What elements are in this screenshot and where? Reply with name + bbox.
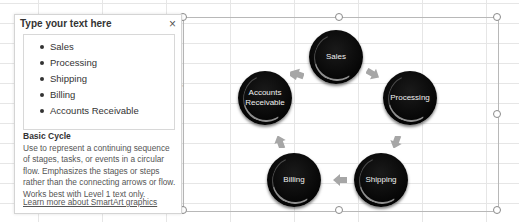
list-item[interactable]: Sales xyxy=(40,39,139,55)
bullet-icon xyxy=(40,61,44,65)
resize-handle-middle-right[interactable] xyxy=(493,110,501,118)
resize-handle-bottom-center[interactable] xyxy=(335,206,343,214)
text-pane-header: Type your text here × xyxy=(15,15,181,33)
resize-handle-bottom-right[interactable] xyxy=(493,206,501,214)
node-label-line1: Accounts xyxy=(249,88,282,98)
node-label: Sales xyxy=(326,52,346,62)
arrow-icon xyxy=(389,136,403,148)
bullet-icon xyxy=(40,45,44,49)
smartart-text-pane: Type your text here × Sales Processing S… xyxy=(14,14,182,214)
list-item[interactable]: Billing xyxy=(40,87,139,103)
arrow-icon xyxy=(290,68,304,80)
layout-description-text: Use to represent a continuing sequence o… xyxy=(23,143,177,201)
layout-name: Basic Cycle xyxy=(23,131,177,143)
bullet-icon xyxy=(40,77,44,81)
resize-handle-top-center[interactable] xyxy=(335,13,343,21)
cycle-node-accounts-receivable[interactable]: Accounts Receivable xyxy=(238,71,292,125)
learn-more-link[interactable]: Learn more about SmartArt graphics xyxy=(23,197,157,207)
cycle-node-processing[interactable]: Processing xyxy=(383,71,437,125)
bullet-icon xyxy=(40,109,44,113)
resize-handle-top-right[interactable] xyxy=(493,13,501,21)
bullet-list: Sales Processing Shipping Billing Accoun… xyxy=(40,39,139,119)
list-item[interactable]: Shipping xyxy=(40,71,139,87)
bullet-icon xyxy=(40,93,44,97)
arrow-icon xyxy=(333,174,347,186)
text-pane-title: Type your text here xyxy=(20,18,112,29)
node-label-line2: Receivable xyxy=(245,98,285,108)
node-label: Processing xyxy=(390,93,430,103)
pane-expander-icon[interactable]: ‹ xyxy=(182,82,184,88)
node-label: Billing xyxy=(283,175,304,185)
layout-description: Basic Cycle Use to represent a continuin… xyxy=(23,131,177,201)
list-item[interactable]: Accounts Receivable xyxy=(40,103,139,119)
list-item[interactable]: Processing xyxy=(40,55,139,71)
cycle-node-sales[interactable]: Sales xyxy=(309,30,363,84)
arrow-icon xyxy=(273,136,287,148)
cycle-node-shipping[interactable]: Shipping xyxy=(354,153,408,207)
cycle-node-billing[interactable]: Billing xyxy=(267,153,321,207)
arrow-icon xyxy=(366,68,380,80)
text-pane-editor[interactable]: Sales Processing Shipping Billing Accoun… xyxy=(23,34,175,130)
node-label: Shipping xyxy=(365,175,396,185)
close-icon[interactable]: × xyxy=(169,16,176,32)
